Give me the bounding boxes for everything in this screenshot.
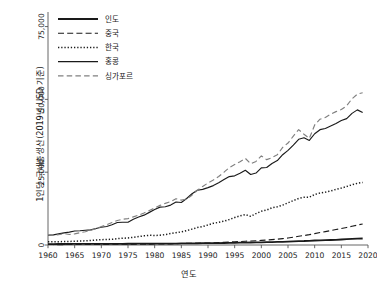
x-tick-label: 1965 <box>65 251 84 260</box>
x-tick-label: 1960 <box>38 251 57 260</box>
x-tick-label: 2010 <box>305 251 324 260</box>
y-tick-label: 25,000 <box>37 159 46 186</box>
y-tick-label: 0 <box>37 242 46 247</box>
x-tick-label: 1980 <box>145 251 164 260</box>
series-line-4 <box>48 93 363 235</box>
y-tick-label: 75,000 <box>37 13 46 40</box>
x-tick-label: 1970 <box>92 251 111 260</box>
legend-label-4: 싱가포르 <box>105 71 133 81</box>
x-tick-label: 1985 <box>172 251 191 260</box>
chart-container: 1인당 국내총생산(2019년 USD 기준) 연도 025,00050,000… <box>0 0 377 290</box>
x-tick-label: 1990 <box>198 251 217 260</box>
legend-label-1: 중국 <box>105 29 119 38</box>
series-line-1 <box>48 224 363 245</box>
x-tick-label: 2020 <box>358 251 377 260</box>
x-tick-label: 2015 <box>332 251 351 260</box>
plot-area: 025,00050,00075,000196019651970197519801… <box>0 0 377 290</box>
legend-label-3: 홍콩 <box>105 56 119 66</box>
x-tick-label: 2000 <box>252 251 271 260</box>
x-tick-label: 1975 <box>118 251 137 260</box>
series-line-3 <box>48 110 363 235</box>
x-tick-label: 2005 <box>278 251 297 260</box>
x-tick-label: 1995 <box>225 251 244 260</box>
y-tick-label: 50,000 <box>37 86 46 113</box>
legend-label-0: 인도 <box>105 14 119 24</box>
legend-label-2: 한국 <box>105 43 119 52</box>
